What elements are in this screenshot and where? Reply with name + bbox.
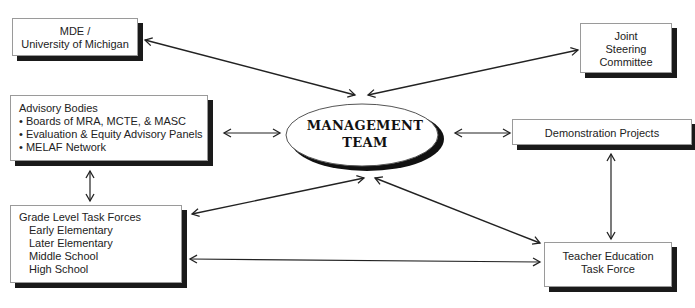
advisory-bodies-box[interactable]: Advisory Bodies • Boards of MRA, MCTE, &… [10, 95, 208, 161]
grade-level-item: Middle School [19, 250, 181, 263]
mde-line-2: University of Michigan [13, 38, 137, 51]
grade-level-title: Grade Level Task Forces [19, 211, 181, 224]
demonstration-projects-box[interactable]: Demonstration Projects [512, 119, 692, 145]
jsc-line-1: Joint [581, 30, 671, 43]
edge-gltf-tetf [190, 259, 540, 262]
advisory-item: • Evaluation & Equity Advisory Panels [19, 128, 207, 141]
edge-mt-mde [145, 40, 355, 95]
jsc-line-2: Steering [581, 43, 671, 56]
management-team-label: MANAGEMENT TEAM [305, 117, 425, 151]
grade-level-task-forces-box[interactable]: Grade Level Task Forces Early Elementary… [10, 205, 182, 283]
joint-steering-committee-box[interactable]: Joint Steering Committee [580, 23, 672, 73]
grade-level-item: Later Elementary [19, 237, 181, 250]
edge-mt-gltf [192, 178, 364, 214]
tetf-line-2: Task Force [545, 263, 671, 276]
mde-line-1: MDE / [13, 25, 137, 38]
jsc-line-3: Committee [581, 56, 671, 69]
edge-mt-tetf [375, 178, 540, 243]
advisory-item: • MELAF Network [19, 141, 207, 154]
grade-level-item: Early Elementary [19, 224, 181, 237]
edge-mt-jsc [368, 50, 578, 95]
management-team-line-2: TEAM [305, 134, 425, 151]
advisory-bodies-title: Advisory Bodies [19, 102, 207, 115]
advisory-item: • Boards of MRA, MCTE, & MASC [19, 115, 207, 128]
demonstration-projects-label: Demonstration Projects [513, 127, 691, 140]
management-team-line-1: MANAGEMENT [305, 117, 425, 134]
grade-level-item: High School [19, 263, 181, 276]
mde-university-box[interactable]: MDE / University of Michigan [12, 18, 138, 56]
teacher-education-task-force-box[interactable]: Teacher Education Task Force [544, 242, 672, 287]
tetf-line-1: Teacher Education [545, 250, 671, 263]
